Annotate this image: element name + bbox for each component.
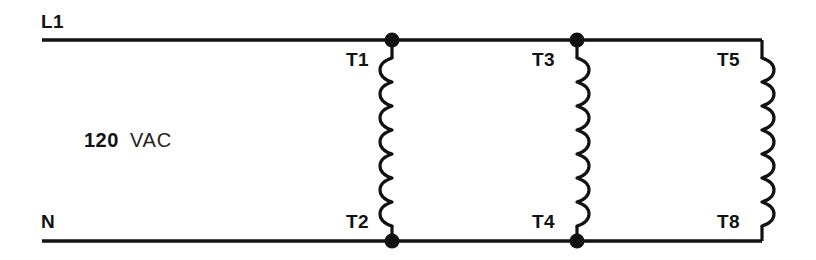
terminal-label-t2: T2 [346, 212, 369, 231]
junction-dot-t2 [385, 234, 400, 249]
coil-3-winding [762, 58, 774, 226]
junction-dot-t3 [570, 33, 585, 48]
terminal-label-t8: T8 [717, 212, 740, 231]
terminal-label-t5: T5 [717, 50, 740, 69]
voltage-unit: VAC [130, 129, 172, 152]
rail-label-l1: L1 [41, 12, 64, 31]
rail-label-n: N [41, 212, 55, 231]
wiring-diagram: L1 N 120 VAC T1 T2 T3 T4 T5 T8 [0, 0, 816, 260]
junction-dot-t1 [385, 33, 400, 48]
coil-2-winding [577, 58, 589, 226]
junction-dot-t4 [570, 234, 585, 249]
terminal-label-t4: T4 [532, 212, 555, 231]
voltage-value: 120 [84, 129, 119, 152]
terminal-label-t1: T1 [346, 50, 369, 69]
terminal-label-t3: T3 [532, 50, 555, 69]
voltage-annotation: 120 VAC [84, 129, 172, 152]
coil-1-winding [380, 58, 392, 226]
